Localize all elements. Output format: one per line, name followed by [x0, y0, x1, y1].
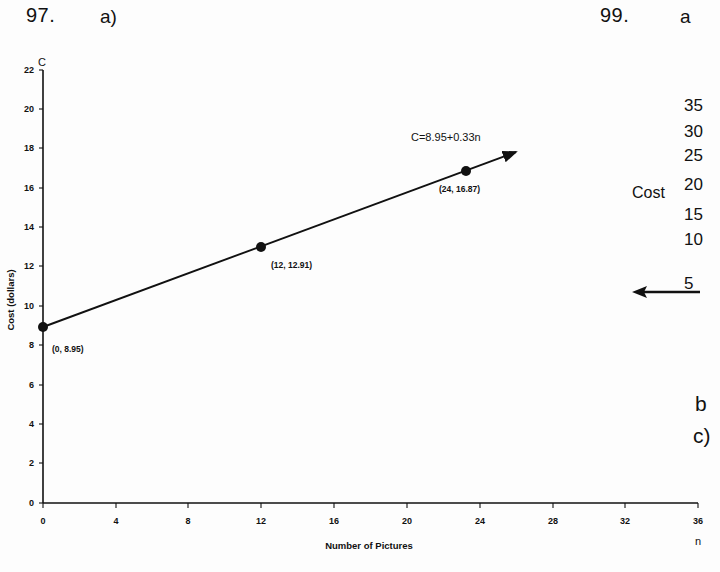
y-tick-label-18: 18 [24, 143, 34, 153]
data-point-0-label: (0, 8.95) [52, 344, 84, 354]
y-tick-label-12: 12 [24, 261, 34, 271]
problem-99-part-a-label: a [680, 6, 691, 28]
y-tick-label-8: 8 [29, 340, 34, 350]
x-tick-label-16: 16 [329, 516, 339, 526]
y-tick-label-16: 16 [24, 183, 34, 193]
x-tick-marks [43, 503, 698, 508]
c2-y-tick-label-30: 30 [684, 122, 703, 142]
equation-annotation: C=8.95+0.33n [411, 131, 481, 143]
y-tick-label-4: 4 [29, 419, 34, 429]
cost-partial-chart: 35 30 25 20 15 10 5 Cost [590, 60, 720, 360]
y-tick-label-14: 14 [24, 222, 34, 232]
y-tick-label-2: 2 [29, 458, 34, 468]
data-point-0 [38, 322, 48, 332]
data-point-1 [256, 242, 266, 252]
problem-99-part-c-label: c) [693, 424, 711, 448]
y-axis-title: Cost (dollars) [5, 269, 16, 330]
c2-y-tick-label-35: 35 [684, 96, 703, 116]
y-tick-label-20: 20 [24, 104, 34, 114]
y-tick-marks [39, 70, 43, 503]
x-tick-label-4: 4 [113, 516, 118, 526]
c2-y-tick-label-25: 25 [684, 146, 703, 166]
left-arrow-icon [630, 282, 700, 302]
problem-99-part-b-label: b [695, 392, 707, 416]
data-point-1-label: (12, 12.91) [271, 260, 312, 270]
x-tick-label-32: 32 [620, 516, 630, 526]
data-point-2-label: (24, 16.87) [439, 184, 480, 194]
x-axis-title: Number of Pictures [325, 540, 413, 551]
trend-line [43, 152, 516, 327]
y-axis-variable-C: C [38, 56, 46, 68]
problem-number-99: 99. [600, 4, 629, 27]
x-tick-label-20: 20 [402, 516, 412, 526]
x-tick-label-28: 28 [548, 516, 558, 526]
x-tick-label-0: 0 [40, 516, 45, 526]
x-tick-label-12: 12 [256, 516, 266, 526]
x-tick-label-36: 36 [693, 516, 703, 526]
x-axis-variable-n: n [695, 535, 701, 547]
data-point-2 [461, 166, 471, 176]
c2-y-tick-label-15: 15 [684, 205, 703, 225]
y-tick-label-10: 10 [24, 301, 34, 311]
y-tick-label-6: 6 [29, 380, 34, 390]
y-tick-label-0: 0 [29, 498, 34, 508]
problem-97-part-a-label: a) [100, 6, 117, 28]
c2-y-tick-label-10: 10 [684, 230, 703, 250]
c2-y-tick-label-20: 20 [684, 175, 703, 195]
page-canvas: 97. a) 99. a b c) [0, 0, 720, 572]
x-tick-label-8: 8 [185, 516, 190, 526]
problem-number-97: 97. [26, 4, 55, 27]
c2-y-axis-title: Cost [632, 184, 665, 202]
x-tick-label-24: 24 [475, 516, 485, 526]
y-tick-label-22: 22 [24, 65, 34, 75]
